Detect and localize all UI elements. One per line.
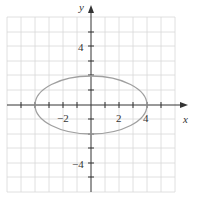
ellipse-graph: y x −2 2 4 4 −4 [0,0,197,204]
x-axis-label: x [182,113,188,125]
x-axis-arrow-icon [180,102,188,108]
tick-label-x-4: 4 [143,112,149,124]
y-axis-label: y [78,1,84,13]
tick-label-x-neg2: −2 [57,112,69,124]
tick-label-x-2: 2 [116,112,122,124]
y-axis-arrow-icon [88,5,94,13]
axes [7,10,183,192]
tick-label-y-neg4: −4 [72,158,84,170]
tick-label-y-4: 4 [78,41,84,53]
